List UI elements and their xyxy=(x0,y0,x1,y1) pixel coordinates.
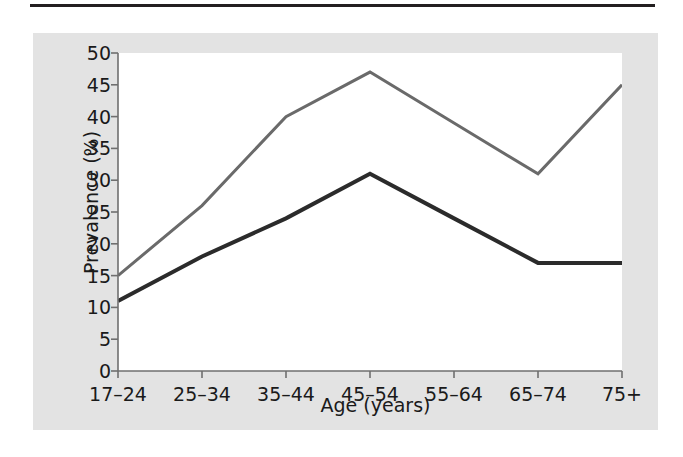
top-horizontal-rule xyxy=(30,4,655,7)
y-axis-title: Prevalence (%) xyxy=(82,103,101,303)
x-axis-title-text: Age (years) xyxy=(321,394,431,416)
x-axis-title: Age (years) xyxy=(33,396,658,415)
x-axis-tick-labels: 17–2425–3435–4445–5455–6465–7475+ xyxy=(33,33,658,430)
y-axis-title-wrap: Prevalence (%) xyxy=(51,53,77,371)
figure-root: 05101520253035404550 17–2425–3435–4445–5… xyxy=(0,0,683,457)
chart-panel: 05101520253035404550 17–2425–3435–4445–5… xyxy=(33,33,658,430)
